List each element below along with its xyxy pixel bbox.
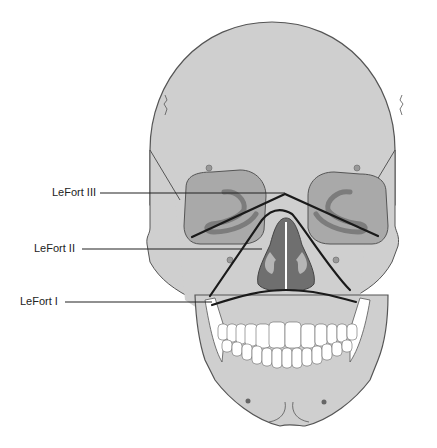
foramen-left bbox=[206, 165, 212, 171]
suture-right bbox=[400, 95, 403, 115]
label-lefort-2: LeFort II bbox=[34, 242, 75, 254]
infraorbital-right bbox=[333, 257, 339, 263]
foramen-right bbox=[354, 165, 360, 171]
label-lefort-3: LeFort III bbox=[52, 186, 96, 198]
skull-diagram bbox=[0, 0, 437, 448]
mental-foramen-right bbox=[322, 400, 327, 405]
label-lefort-1: LeFort I bbox=[20, 295, 58, 307]
mental-foramen-left bbox=[246, 399, 251, 404]
